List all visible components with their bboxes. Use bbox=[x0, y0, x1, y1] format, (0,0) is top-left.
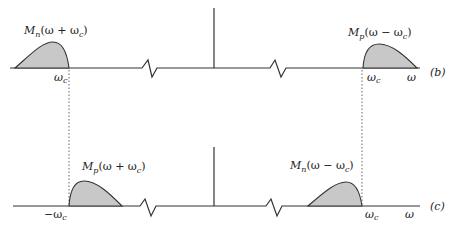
spectrum-diagram: Mn(ω + ωc) Mp(ω − ωc) ωc ωc ω (b) Mp(ω +… bbox=[0, 0, 455, 231]
frequency-axis-b bbox=[10, 60, 420, 77]
label-mp-minus-b: Mp(ω − ωc) bbox=[347, 26, 412, 41]
label-mn-minus-c: Mn(ω − ωc) bbox=[289, 159, 354, 174]
tick-wc-right-c: ωc bbox=[365, 208, 379, 222]
spectrum-right-b bbox=[363, 44, 417, 68]
tick-neg-wc-c: −ωc bbox=[44, 208, 67, 222]
tick-wc-left-b: ωc bbox=[54, 71, 68, 85]
spectrum-right-c bbox=[308, 182, 362, 206]
tick-omega-b: ω bbox=[407, 71, 416, 84]
label-mn-plus-b: Mn(ω + ωc) bbox=[23, 24, 88, 39]
label-mp-plus-c: Mp(ω + ωc) bbox=[81, 160, 146, 175]
panel-tag-c: (c) bbox=[430, 200, 445, 213]
panel-c: Mp(ω + ωc) Mn(ω − ωc) −ωc ωc ω (c) bbox=[13, 147, 445, 222]
tick-wc-right-b: ωc bbox=[367, 71, 381, 85]
panel-tag-b: (b) bbox=[430, 66, 446, 79]
panel-b: Mn(ω + ωc) Mp(ω − ωc) ωc ωc ω (b) bbox=[10, 8, 446, 85]
spectrum-left-b bbox=[15, 42, 69, 68]
tick-omega-c: ω bbox=[405, 208, 414, 221]
spectrum-left-c bbox=[69, 181, 122, 206]
